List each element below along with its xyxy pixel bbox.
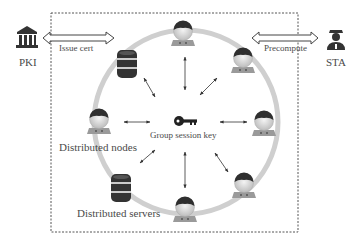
node-bottom xyxy=(173,197,197,223)
server-bottom-left xyxy=(111,174,131,202)
bank-building-icon xyxy=(16,26,38,48)
diagram-canvas xyxy=(0,0,363,247)
police-officer-icon xyxy=(327,30,345,50)
node-bottom-right xyxy=(232,173,256,199)
precompute-label: Precompute xyxy=(264,44,307,53)
group-session-key-label: Group session key xyxy=(150,131,217,140)
distributed-nodes-label: Distributed nodes xyxy=(59,142,137,153)
node-right xyxy=(252,111,276,137)
sta-label: STA xyxy=(326,57,346,68)
issue-cert-label: Issue cert xyxy=(59,44,93,53)
distributed-servers-label: Distributed servers xyxy=(77,208,160,219)
node-left xyxy=(87,109,111,135)
node-top-right xyxy=(231,48,255,74)
pki-label: PKI xyxy=(19,57,37,68)
key-icon xyxy=(174,116,197,126)
server-top-left xyxy=(117,50,137,78)
node-top xyxy=(171,21,195,47)
